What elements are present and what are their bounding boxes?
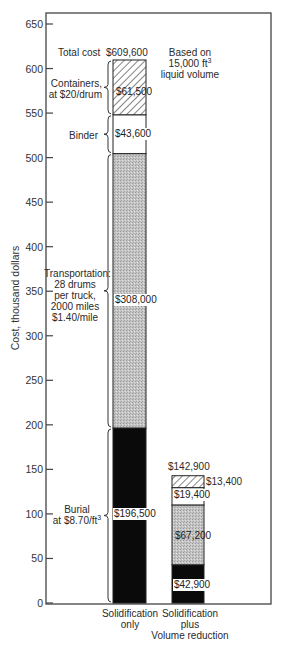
note-line3: liquid volume [158,69,222,80]
bar1-containers-value: $61,500 [115,86,153,98]
note-line1: Based on [158,47,222,58]
bar1-burial-value: $196,500 [113,508,157,520]
containers-annotation: Containers, at $20/drum [40,78,102,100]
burial-annotation: Burial at $8.70/ft3 [48,504,106,526]
total-cost-label: Total cost [58,47,100,58]
bar2-transport-value: $67,200 [174,530,212,542]
category-label-volume-reduction: Solidification plus Volume reduction [150,608,230,641]
brace-icon [104,116,111,153]
bar1-binder-value: $43,600 [114,128,152,140]
y-tick-label: 150 [13,463,43,475]
y-tick-label: 450 [13,196,43,208]
bar2-binder-value: $19,400 [173,489,211,501]
bar2-containers-value: $13,400 [206,476,242,487]
y-tick-label: 100 [13,508,43,520]
y-tick-label: 650 [13,18,43,30]
bar-segment [172,476,204,488]
brace-icon [104,61,111,114]
y-tick-label: 250 [13,374,43,386]
y-tick-label: 500 [13,152,43,164]
bar1-transport-value: $308,000 [114,294,158,306]
note-line2: 15,000 ft3 [158,58,222,69]
bars [113,60,204,603]
bar2-burial-value: $42,900 [173,579,211,591]
note-volume: Based on 15,000 ft3 liquid volume [158,47,222,80]
y-tick-label: 50 [13,552,43,564]
y-tick-label: 200 [13,419,43,431]
y-tick-label: 600 [13,63,43,75]
y-axis-label: Cost, thousand dollars [9,243,21,353]
transportation-annotation: Transportation: 28 drums per truck, 2000… [44,268,106,323]
total-value-bar2: $142,900 [168,461,210,472]
binder-annotation: Binder [60,130,98,141]
bar-segment [113,154,146,428]
y-tick-label: 0 [13,597,43,609]
total-value-bar1: $609,600 [106,47,148,58]
y-tick-label: 550 [13,107,43,119]
